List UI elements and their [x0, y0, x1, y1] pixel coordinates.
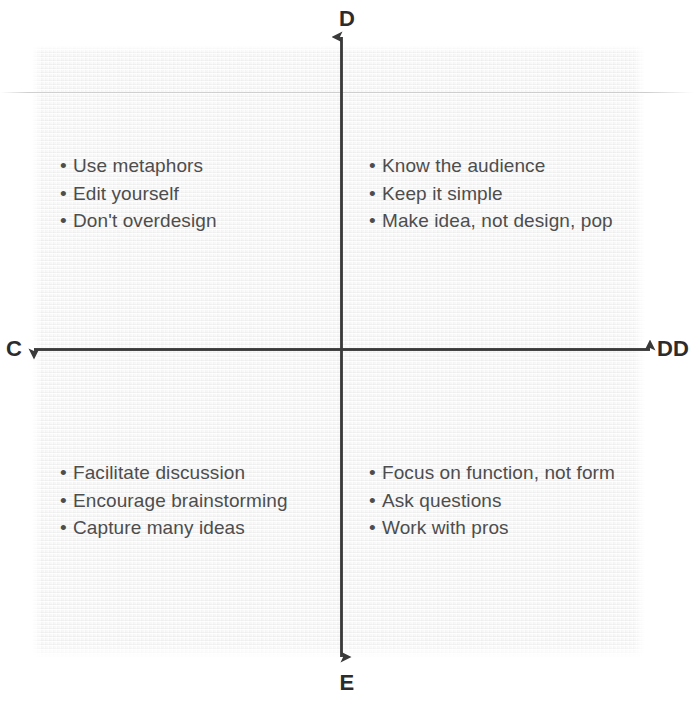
- list-item-label: Focus on function, not form: [382, 462, 615, 483]
- list-item: •Work with pros: [369, 514, 615, 542]
- list-item-label: Edit yourself: [73, 183, 179, 204]
- list-item: •Know the audience: [369, 152, 613, 180]
- axis-label-top: D: [0, 8, 694, 30]
- axis-label-right: DD: [657, 338, 689, 360]
- bullet-icon: •: [369, 152, 382, 180]
- list-item-label: Encourage brainstorming: [73, 490, 288, 511]
- axis-label-left: C: [6, 338, 22, 360]
- bullet-icon: •: [369, 180, 382, 208]
- list-item-label: Capture many ideas: [73, 517, 245, 538]
- list-item: •Don't overdesign: [60, 207, 217, 235]
- list-item-label: Facilitate discussion: [73, 462, 245, 483]
- list-item: •Edit yourself: [60, 180, 217, 208]
- list-item: •Use metaphors: [60, 152, 217, 180]
- bullet-icon: •: [60, 180, 73, 208]
- list-item-label: Work with pros: [382, 517, 509, 538]
- bullet-icon: •: [60, 487, 73, 515]
- bullet-icon: •: [369, 487, 382, 515]
- bullet-list: •Use metaphors •Edit yourself •Don't ove…: [60, 152, 217, 235]
- list-item: •Make idea, not design, pop: [369, 207, 613, 235]
- bullet-icon: •: [369, 207, 382, 235]
- bullet-list: •Know the audience •Keep it simple •Make…: [369, 152, 613, 235]
- top-left-quadrant: •Use metaphors •Edit yourself •Don't ove…: [60, 152, 217, 235]
- bullet-list: •Focus on function, not form •Ask questi…: [369, 459, 615, 542]
- top-right-quadrant: •Know the audience •Keep it simple •Make…: [369, 152, 613, 235]
- axes-group: [0, 0, 694, 702]
- list-item-label: Make idea, not design, pop: [382, 210, 613, 231]
- bullet-list: •Facilitate discussion •Encourage brains…: [60, 459, 288, 542]
- list-item-label: Ask questions: [382, 490, 502, 511]
- bullet-icon: •: [60, 207, 73, 235]
- list-item: •Encourage brainstorming: [60, 487, 288, 515]
- list-item: •Capture many ideas: [60, 514, 288, 542]
- bullet-icon: •: [369, 514, 382, 542]
- bullet-icon: •: [60, 152, 73, 180]
- list-item: •Ask questions: [369, 487, 615, 515]
- list-item-label: Use metaphors: [73, 155, 203, 176]
- axis-label-bottom: E: [0, 672, 694, 694]
- bottom-left-quadrant: •Facilitate discussion •Encourage brains…: [60, 459, 288, 542]
- list-item: •Focus on function, not form: [369, 459, 615, 487]
- list-item-label: Know the audience: [382, 155, 545, 176]
- bullet-icon: •: [60, 459, 73, 487]
- bullet-icon: •: [60, 514, 73, 542]
- bullet-icon: •: [369, 459, 382, 487]
- list-item-label: Keep it simple: [382, 183, 503, 204]
- list-item-label: Don't overdesign: [73, 210, 217, 231]
- bottom-right-quadrant: •Focus on function, not form •Ask questi…: [369, 459, 615, 542]
- list-item: •Facilitate discussion: [60, 459, 288, 487]
- diagram-canvas: D E C DD •Use metaphors •Edit yourself •…: [0, 0, 694, 702]
- list-item: •Keep it simple: [369, 180, 613, 208]
